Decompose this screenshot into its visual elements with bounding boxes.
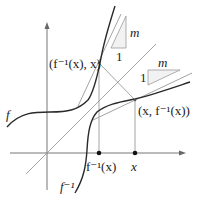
point-x-axis (133, 151, 138, 156)
label-tick-x: x (130, 159, 137, 174)
label-point-lower: (x, f⁻¹(x)) (138, 103, 190, 118)
curve-f-inverse (75, 82, 190, 193)
label-curve-finv: f⁻¹ (60, 179, 74, 194)
x-axis-arrow-icon (179, 151, 186, 156)
slope-triangle-lower (148, 70, 180, 85)
label-slope-m-upper: m (130, 25, 139, 40)
label-point-upper: (f⁻¹(x), x) (49, 56, 101, 71)
reflection-segment (99, 63, 135, 100)
y-axis-arrow-icon (45, 22, 50, 29)
label-slope-1-lower: 1 (140, 70, 147, 85)
label-slope-m-lower: m (158, 55, 167, 70)
label-curve-f: f (6, 107, 12, 122)
label-slope-1-upper: 1 (116, 49, 123, 64)
point-lower (134, 99, 137, 102)
label-tick-finv: f⁻¹(x) (86, 159, 116, 174)
slope-triangle-upper (111, 16, 126, 48)
inverse-function-diagram: (f⁻¹(x), x) (x, f⁻¹(x)) f⁻¹(x) x f f⁻¹ m… (0, 0, 199, 203)
point-finv-x-axis (97, 151, 102, 156)
